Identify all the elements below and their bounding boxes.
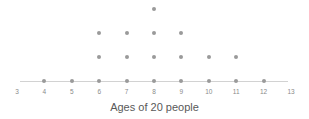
data-dot: [70, 79, 74, 83]
data-dot: [234, 79, 238, 83]
data-dot: [125, 79, 129, 83]
x-tick-label-5: 5: [60, 88, 84, 96]
x-tick-label-4: 4: [32, 88, 56, 96]
data-dot: [152, 31, 156, 35]
x-tick-label-12: 12: [252, 88, 276, 96]
x-tick-label-8: 8: [142, 88, 166, 96]
x-tick-label-9: 9: [169, 88, 193, 96]
data-dot: [125, 55, 129, 59]
x-axis-caption: Ages of 20 people: [0, 100, 309, 115]
data-dot: [97, 79, 101, 83]
data-dot: [152, 79, 156, 83]
plot-area: 345678910111213: [0, 0, 309, 96]
data-dot: [207, 55, 211, 59]
data-dot: [125, 31, 129, 35]
x-tick-label-11: 11: [224, 88, 248, 96]
dot-plot-figure: 345678910111213 Ages of 20 people: [0, 0, 309, 119]
data-dot: [179, 79, 183, 83]
data-dot: [97, 55, 101, 59]
data-dot: [262, 79, 266, 83]
x-tick-label-6: 6: [87, 88, 111, 96]
data-dot: [179, 31, 183, 35]
data-dot: [42, 79, 46, 83]
data-dot: [207, 79, 211, 83]
x-tick-label-13: 13: [279, 88, 303, 96]
data-dot: [152, 55, 156, 59]
x-tick-label-7: 7: [115, 88, 139, 96]
x-tick-label-3: 3: [5, 88, 29, 96]
data-dot: [179, 55, 183, 59]
data-dot: [234, 55, 238, 59]
x-tick-label-10: 10: [197, 88, 221, 96]
data-dot: [152, 7, 156, 11]
data-dot: [97, 31, 101, 35]
